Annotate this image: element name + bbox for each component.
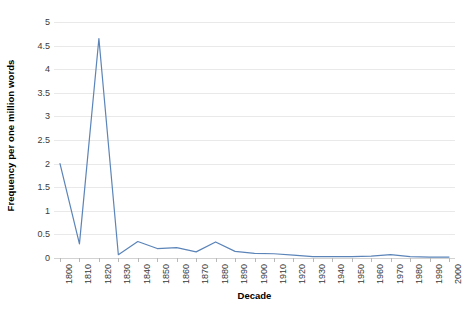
x-tick-mark-1830 — [118, 258, 119, 262]
y-tick-5: 5 — [18, 17, 50, 27]
x-tick-mark-1870 — [196, 258, 197, 262]
x-tick-mark-1910 — [274, 258, 275, 262]
x-tick-1860: 1860 — [181, 264, 191, 284]
x-tick-mark-1860 — [177, 258, 178, 262]
x-tick-1890: 1890 — [239, 264, 249, 284]
x-tick-1990: 1990 — [434, 264, 444, 284]
x-tick-1930: 1930 — [317, 264, 327, 284]
series-line-frequency — [54, 22, 455, 258]
y-tick-1.5: 1.5 — [18, 182, 50, 192]
x-tick-1970: 1970 — [395, 264, 405, 284]
x-tick-1950: 1950 — [356, 264, 366, 284]
x-tick-1830: 1830 — [122, 264, 132, 284]
x-tick-mark-1980 — [410, 258, 411, 262]
x-tick-mark-1970 — [391, 258, 392, 262]
x-tick-1960: 1960 — [375, 264, 385, 284]
y-axis-tick-labels: 00.511.522.533.544.55 — [18, 0, 54, 315]
y-tick-4.5: 4.5 — [18, 41, 50, 51]
x-tick-1810: 1810 — [83, 264, 93, 284]
x-tick-1900: 1900 — [259, 264, 269, 284]
x-tick-mark-1820 — [99, 258, 100, 262]
x-tick-mark-2000 — [449, 258, 450, 262]
y-axis-title-text: Frequency per one million words — [6, 59, 17, 211]
y-tick-0.5: 0.5 — [18, 229, 50, 239]
x-tick-mark-1800 — [60, 258, 61, 262]
y-tick-2.5: 2.5 — [18, 135, 50, 145]
x-tick-mark-1920 — [293, 258, 294, 262]
x-tick-1840: 1840 — [142, 264, 152, 284]
x-tick-1980: 1980 — [414, 264, 424, 284]
x-tick-mark-1940 — [332, 258, 333, 262]
x-tick-mark-1810 — [79, 258, 80, 262]
x-tick-1910: 1910 — [278, 264, 288, 284]
y-tick-3: 3 — [18, 111, 50, 121]
x-tick-mark-1850 — [157, 258, 158, 262]
x-axis-title: Decade — [54, 290, 455, 301]
x-tick-1800: 1800 — [64, 264, 74, 284]
x-tick-mark-1950 — [352, 258, 353, 262]
x-tick-mark-1890 — [235, 258, 236, 262]
y-tick-3.5: 3.5 — [18, 88, 50, 98]
y-tick-0: 0 — [18, 253, 50, 263]
x-tick-mark-1990 — [430, 258, 431, 262]
x-tick-1880: 1880 — [220, 264, 230, 284]
y-tick-1: 1 — [18, 206, 50, 216]
x-tick-mark-1880 — [216, 258, 217, 262]
x-tick-2000: 2000 — [453, 264, 463, 284]
x-tick-1850: 1850 — [161, 264, 171, 284]
x-tick-mark-1930 — [313, 258, 314, 262]
x-tick-mark-1900 — [255, 258, 256, 262]
x-tick-1920: 1920 — [297, 264, 307, 284]
y-tick-2: 2 — [18, 159, 50, 169]
x-tick-1870: 1870 — [200, 264, 210, 284]
line-chart: Frequency per one million words 00.511.5… — [0, 0, 466, 315]
plot-area — [54, 22, 455, 258]
series-polyline — [60, 39, 449, 258]
x-tick-1940: 1940 — [336, 264, 346, 284]
y-tick-4: 4 — [18, 64, 50, 74]
x-tick-mark-1840 — [138, 258, 139, 262]
x-tick-1820: 1820 — [103, 264, 113, 284]
x-tick-mark-1960 — [371, 258, 372, 262]
